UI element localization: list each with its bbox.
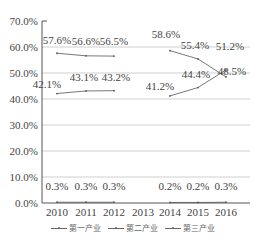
legend-line-icon [165, 228, 181, 229]
data-label: 43.2% [102, 71, 130, 83]
legend-label: 第一产业 [69, 224, 101, 233]
x-tick-label: 2010 [46, 206, 69, 218]
data-labels: 0.3%0.3%0.3%0.2%0.2%0.3%57.6%56.6%56.5%5… [33, 28, 246, 193]
y-tick-label: 70.0% [10, 15, 38, 27]
x-tick-label: 2012 [103, 206, 125, 218]
data-label: 55.4% [181, 39, 209, 51]
y-tick-label: 20.0% [10, 145, 38, 157]
y-tick-label: 30.0% [10, 119, 38, 131]
series-line [57, 53, 114, 56]
series-line [57, 91, 114, 94]
data-label: 44.4% [182, 68, 210, 80]
legend-line-icon [51, 228, 67, 229]
legend-label: 第三产业 [183, 224, 215, 233]
y-tick-label: 0.0% [15, 197, 38, 209]
data-label: 0.2% [187, 180, 210, 192]
x-tick-label: 2015 [187, 206, 210, 218]
data-label: 0.2% [159, 180, 182, 192]
data-label: 0.3% [46, 180, 69, 192]
data-label: 43.1% [70, 71, 98, 83]
x-tick-label: 2011 [75, 206, 97, 218]
data-label: 0.3% [215, 180, 238, 192]
legend-item-secondary: 第二产业 [108, 222, 159, 233]
data-label: 51.2% [216, 40, 244, 52]
x-tick-label: 2013 [132, 206, 155, 218]
legend: 第一产业 第二产业 第三产业 [0, 222, 266, 233]
data-label: 56.5% [100, 35, 128, 47]
legend-line-icon [108, 228, 124, 229]
data-label: 0.3% [75, 180, 98, 192]
x-tick-label: 2016 [215, 206, 238, 218]
legend-item-tertiary: 第三产业 [165, 222, 216, 233]
data-label: 48.5% [218, 65, 246, 77]
data-label: 58.6% [152, 28, 180, 40]
y-tick-label: 60.0% [10, 41, 38, 53]
line-chart: 0.0%10.0%20.0%30.0%40.0%50.0%60.0%70.0% … [0, 0, 266, 220]
y-tick-label: 10.0% [10, 171, 38, 183]
x-axis-ticks: 2010201120122013201420152016 [46, 206, 238, 218]
data-label: 41.2% [146, 80, 174, 92]
legend-item-primary: 第一产业 [51, 222, 102, 233]
legend-label: 第二产业 [126, 224, 158, 233]
x-tick-label: 2014 [159, 206, 182, 218]
data-label: 56.6% [72, 35, 100, 47]
data-label: 42.1% [33, 78, 61, 90]
y-tick-label: 40.0% [10, 93, 38, 105]
y-axis-ticks: 0.0%10.0%20.0%30.0%40.0%50.0%60.0%70.0% [10, 15, 38, 209]
data-label: 0.3% [103, 180, 126, 192]
data-label: 57.6% [43, 34, 71, 46]
